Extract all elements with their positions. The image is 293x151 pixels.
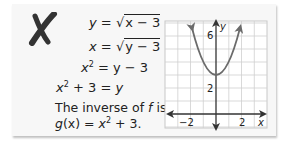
x-axis-label: x	[257, 117, 264, 128]
tick-label-x-neg2: −2	[179, 117, 194, 128]
tick-label-y-6: 6	[207, 30, 213, 41]
tick-label-y-2: 2	[207, 83, 213, 94]
graph: y x 6 2 −2 2	[0, 0, 293, 151]
y-axis-label: y	[219, 21, 227, 32]
tick-label-x-2: 2	[239, 117, 245, 128]
